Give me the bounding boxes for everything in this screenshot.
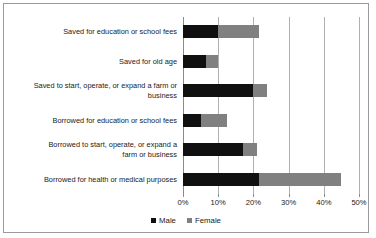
bar-segment-male <box>183 55 206 68</box>
bar-segment-male <box>183 84 253 97</box>
bar-segment-female <box>243 143 257 156</box>
y-axis-label-3-text: Borrowed for education or school fees <box>53 116 177 125</box>
bar-row <box>183 143 359 156</box>
y-axis-label-2: Saved to start, operate, or expand a far… <box>9 76 177 106</box>
x-axis-tick <box>359 194 360 197</box>
gridline-50 <box>359 17 360 194</box>
x-axis-tick <box>324 194 325 197</box>
y-axis-label-2-text-line1: Saved to start, operate, or expand a far… <box>34 81 177 90</box>
x-axis-tick <box>218 194 219 197</box>
bar-segment-male <box>183 173 259 186</box>
bars-layer <box>183 17 359 194</box>
x-axis-tick <box>253 194 254 197</box>
chart-container: Saved for education or school fees Saved… <box>3 3 369 233</box>
y-axis-category-labels: Saved for education or school fees Saved… <box>10 17 181 194</box>
x-axis-tick-label: 20% <box>246 198 261 207</box>
x-axis-tick-label: 50% <box>351 198 366 207</box>
bar-segment-female <box>218 25 258 38</box>
plot-area <box>183 17 359 194</box>
y-axis-label-4-text-line1: Borrowed to start, operate, or expand a <box>48 140 177 149</box>
legend-swatch-icon <box>187 218 192 223</box>
y-axis-label-4: Borrowed to start, operate, or expand a … <box>9 135 177 165</box>
bar-segment-male <box>183 25 218 38</box>
x-axis-tick <box>183 194 184 197</box>
y-axis-label-1: Saved for old age <box>9 47 177 77</box>
legend-label: Male <box>159 216 176 225</box>
bar-row <box>183 25 359 38</box>
legend-swatch-icon <box>151 218 156 223</box>
x-axis-tick-label: 40% <box>316 198 331 207</box>
y-axis-label-0-text: Saved for education or school fees <box>63 27 177 36</box>
y-axis-label-5: Borrowed for health or medical purposes <box>9 165 177 195</box>
y-axis-label-4-text-line2: farm or business <box>48 150 177 159</box>
x-axis: 0%10%20%30%40%50% <box>183 194 359 210</box>
x-axis-tick-label: 30% <box>281 198 296 207</box>
bar-row <box>183 84 359 97</box>
y-axis-label-2-text-line2: business <box>34 91 177 100</box>
bar-segment-female <box>259 173 342 186</box>
x-axis-tick-label: 0% <box>178 198 189 207</box>
y-axis-label-5-text: Borrowed for health or medical purposes <box>44 175 177 184</box>
bar-segment-female <box>201 114 227 127</box>
bar-segment-male <box>183 114 201 127</box>
bar-segment-male <box>183 143 243 156</box>
y-axis-label-0: Saved for education or school fees <box>9 17 177 47</box>
y-axis-label-1-text: Saved for old age <box>119 57 177 66</box>
x-axis-tick <box>289 194 290 197</box>
y-axis-label-3: Borrowed for education or school fees <box>9 106 177 136</box>
bar-row <box>183 55 359 68</box>
bar-row <box>183 114 359 127</box>
bar-row <box>183 173 359 186</box>
legend-item-male[interactable]: Male <box>151 216 176 225</box>
legend-item-female[interactable]: Female <box>187 216 221 225</box>
chart-legend: MaleFemale <box>4 216 368 225</box>
legend-label: Female <box>195 216 221 225</box>
bar-segment-female <box>253 84 267 97</box>
x-axis-tick-label: 10% <box>211 198 226 207</box>
bar-segment-female <box>206 55 218 68</box>
